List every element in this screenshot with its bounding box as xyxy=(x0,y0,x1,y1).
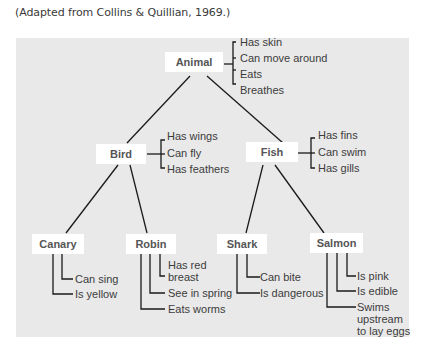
property: to lay eggs xyxy=(357,325,410,337)
property: Eats worms xyxy=(168,303,225,315)
property: See in spring xyxy=(168,287,232,299)
node-label: Salmon xyxy=(317,237,357,249)
node-canary: Canary xyxy=(32,234,84,254)
property: Swims xyxy=(357,301,389,313)
node-bird: Bird xyxy=(96,144,146,164)
property: Is yellow xyxy=(75,288,117,300)
property: Has wings xyxy=(167,130,218,142)
node-label: Robin xyxy=(135,238,166,250)
node-label: Animal xyxy=(176,56,213,68)
property: Has fins xyxy=(318,129,358,141)
property: Is edible xyxy=(357,285,398,297)
property: upstream xyxy=(357,313,403,325)
property: Is dangerous xyxy=(260,287,324,299)
property: Can move around xyxy=(240,52,327,64)
node-label: Fish xyxy=(261,146,284,158)
node-robin: Robin xyxy=(126,234,176,254)
property: Can fly xyxy=(167,147,201,159)
node-label: Shark xyxy=(227,238,258,250)
property: Is pink xyxy=(357,270,389,282)
property: Has gills xyxy=(318,162,360,174)
node-animal: Animal xyxy=(165,52,223,72)
node-fish: Fish xyxy=(246,142,298,162)
node-shark: Shark xyxy=(217,234,267,254)
node-label: Canary xyxy=(39,238,76,250)
node-salmon: Salmon xyxy=(310,233,363,253)
property: Can bite xyxy=(260,271,301,283)
property: Eats xyxy=(240,68,262,80)
property: breast xyxy=(168,271,199,283)
property: Can sing xyxy=(75,273,118,285)
property: Has feathers xyxy=(167,163,229,175)
property: Can swim xyxy=(318,146,366,158)
property: Has skin xyxy=(240,36,282,48)
property: Breathes xyxy=(240,84,284,96)
property: Has red xyxy=(168,259,207,271)
node-label: Bird xyxy=(110,148,132,160)
